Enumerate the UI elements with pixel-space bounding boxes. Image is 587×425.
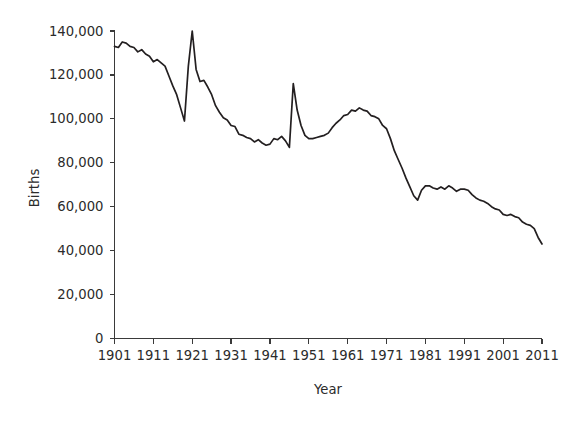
x-axis-title: Year xyxy=(313,382,342,397)
x-tick-label: 1951 xyxy=(292,348,326,363)
chart-canvas: 020,00040,00060,00080,000100,000120,0001… xyxy=(0,0,587,425)
y-axis-ticks xyxy=(110,31,115,339)
x-tick-label: 1961 xyxy=(331,348,365,363)
y-tick-label: 100,000 xyxy=(49,111,104,126)
y-tick-label: 20,000 xyxy=(57,287,103,302)
y-axis-tick-labels: 020,00040,00060,00080,000100,000120,0001… xyxy=(49,24,104,347)
x-tick-label: 1981 xyxy=(409,348,443,363)
y-axis-title: Births xyxy=(27,169,42,208)
y-tick-label: 40,000 xyxy=(57,243,103,258)
plot-area xyxy=(115,31,543,244)
y-tick-label: 140,000 xyxy=(49,24,104,39)
x-tick-label: 1921 xyxy=(175,348,209,363)
y-tick-label: 60,000 xyxy=(57,199,103,214)
y-tick-label: 0 xyxy=(95,331,103,346)
y-tick-label: 80,000 xyxy=(57,155,103,170)
x-tick-label: 1911 xyxy=(137,348,171,363)
x-tick-label: 2011 xyxy=(525,348,559,363)
births-line-chart: 020,00040,00060,00080,000100,000120,0001… xyxy=(0,0,587,425)
x-tick-label: 1971 xyxy=(370,348,404,363)
x-axis-ticks xyxy=(115,339,543,344)
x-axis-group: 1901191119211931194119511961197119811991… xyxy=(98,339,559,398)
births-series-line xyxy=(115,31,543,244)
x-tick-label: 1941 xyxy=(253,348,287,363)
x-axis-tick-labels: 1901191119211931194119511961197119811991… xyxy=(98,348,559,363)
x-tick-label: 1901 xyxy=(98,348,132,363)
y-tick-label: 120,000 xyxy=(49,67,104,82)
y-axis-group: 020,00040,00060,00080,000100,000120,0001… xyxy=(27,24,115,347)
x-tick-label: 1991 xyxy=(447,348,481,363)
x-tick-label: 1931 xyxy=(214,348,248,363)
x-tick-label: 2001 xyxy=(486,348,520,363)
